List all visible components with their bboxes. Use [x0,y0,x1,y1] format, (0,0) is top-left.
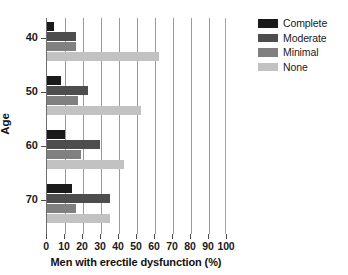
x-tick-10 [64,234,65,239]
bar-moderate-age-40 [47,32,76,41]
bar-moderate-age-60 [47,140,100,149]
bar-none-age-70 [47,214,110,223]
y-tick-50 [41,92,46,93]
y-axis-title: Age [0,113,11,135]
y-tick-label-60: 60 [12,139,38,151]
y-tick-label-50: 50 [12,85,38,97]
legend-label-none: None [283,61,308,73]
y-tick-60 [41,146,46,147]
x-tick-100 [226,234,227,239]
gridline-70 [173,18,174,234]
x-tick-80 [190,234,191,239]
legend-swatch-moderate [258,34,278,43]
y-tick-70 [41,200,46,201]
gridline-50 [137,18,138,234]
gridline-80 [191,18,192,234]
bar-minimal-age-70 [47,204,76,213]
legend-item-complete: Complete [258,16,344,31]
gridline-60 [155,18,156,234]
legend-item-none: None [258,60,344,75]
legend-item-minimal: Minimal [258,45,344,60]
x-tick-0 [46,234,47,239]
bar-minimal-age-40 [47,42,76,51]
x-tick-30 [100,234,101,239]
y-tick-label-70: 70 [12,193,38,205]
legend-swatch-none [258,63,278,72]
y-tick-label-40: 40 [12,31,38,43]
gridline-40 [119,18,120,234]
bar-complete-age-50 [47,76,61,85]
plot-area [46,18,226,234]
x-tick-40 [118,234,119,239]
legend-swatch-minimal [258,48,278,57]
x-tick-90 [208,234,209,239]
x-tick-50 [136,234,137,239]
x-tick-70 [172,234,173,239]
chart-legend: CompleteModerateMinimalNone [258,16,344,74]
legend-item-moderate: Moderate [258,31,344,46]
bar-none-age-60 [47,160,124,169]
legend-label-moderate: Moderate [283,32,327,44]
chart-figure: 0102030405060708090100 Men with erectile… [0,0,348,275]
legend-label-minimal: Minimal [283,46,318,58]
bar-moderate-age-50 [47,86,88,95]
bar-complete-age-70 [47,184,72,193]
legend-label-complete: Complete [283,17,327,29]
x-tick-20 [82,234,83,239]
bar-none-age-50 [47,106,141,115]
x-axis-title: Men with erectile dysfunction (%) [0,256,272,268]
y-tick-40 [41,38,46,39]
x-tick-label-100: 100 [213,240,239,252]
bar-none-age-40 [47,52,159,61]
bar-moderate-age-70 [47,194,110,203]
bar-minimal-age-50 [47,96,78,105]
bar-complete-age-40 [47,22,54,31]
legend-swatch-complete [258,19,278,28]
bar-minimal-age-60 [47,150,81,159]
bar-complete-age-60 [47,130,65,139]
x-tick-60 [154,234,155,239]
gridline-90 [209,18,210,234]
